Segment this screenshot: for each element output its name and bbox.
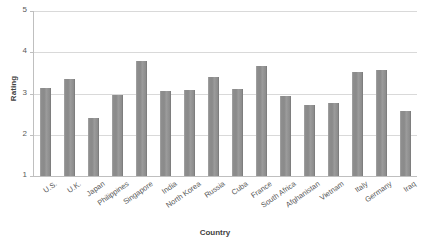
chart-title-cropped [0, 0, 430, 6]
gridline-5 [34, 11, 417, 12]
bar-chart: Rating 12345 U.S.U.K.JapanPhilippinesSin… [0, 0, 430, 245]
bar [160, 91, 171, 176]
bar [328, 103, 339, 176]
bar [136, 61, 147, 176]
y-tick-mark-5 [30, 11, 34, 12]
y-tick-label-4: 4 [8, 47, 27, 55]
bar [88, 118, 99, 176]
y-tick-label-5: 5 [8, 6, 27, 14]
bar [352, 72, 363, 176]
bar [208, 77, 219, 176]
bar [304, 105, 315, 176]
bar [400, 111, 411, 176]
bar [40, 88, 51, 176]
y-tick-label-1: 1 [8, 171, 27, 179]
gridline-1 [34, 176, 417, 177]
bar [256, 66, 267, 176]
y-tick-label-3: 3 [8, 89, 27, 97]
gridline-4 [34, 52, 417, 53]
y-tick-mark-1 [30, 176, 34, 177]
bar [64, 79, 75, 176]
bar [112, 95, 123, 176]
y-tick-label-2: 2 [8, 130, 27, 138]
y-tick-mark-3 [30, 94, 34, 95]
y-tick-mark-2 [30, 135, 34, 136]
bar [280, 96, 291, 176]
bar [376, 70, 387, 176]
bar [232, 89, 243, 176]
y-tick-mark-4 [30, 52, 34, 53]
x-axis-title: Country [0, 228, 430, 237]
bar [184, 90, 195, 176]
